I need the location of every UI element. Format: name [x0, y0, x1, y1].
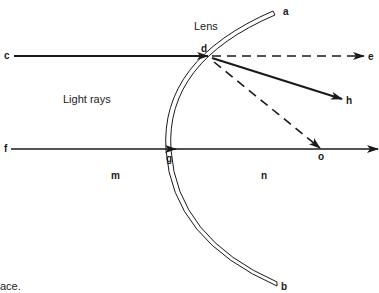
point-label-c: c [4, 50, 10, 61]
light-rays-label: Light rays [63, 93, 111, 105]
point-label-b: b [281, 281, 287, 292]
point-label-d: d [201, 43, 207, 54]
ray-d-to-h [212, 58, 342, 99]
point-label-e: e [368, 51, 374, 62]
lens-title: Lens [194, 20, 218, 32]
point-label-n: n [261, 170, 267, 181]
point-label-m: m [111, 170, 120, 181]
point-label-f: f [4, 143, 8, 154]
point-label-a: a [283, 6, 289, 17]
point-label-g: g [166, 153, 172, 164]
point-label-o: o [318, 151, 324, 162]
caption-fragment: ace. [0, 280, 21, 292]
point-label-h: h [346, 95, 352, 106]
lens-diagram: Lens Light rays ace. a b c d e f g h m n… [0, 0, 379, 293]
